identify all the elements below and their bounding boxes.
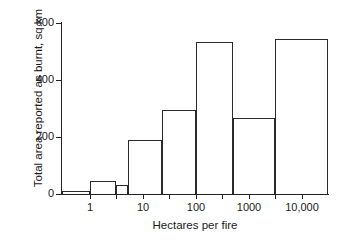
chart-container: Total area reported as burnt, sq.km 0200… xyxy=(0,0,342,242)
x-tick-mark-minor xyxy=(275,194,276,199)
bar xyxy=(162,110,196,194)
bar xyxy=(116,185,127,194)
plot-area xyxy=(62,23,328,194)
x-tick-mark xyxy=(249,194,250,199)
y-tick-label: 600 xyxy=(14,17,54,28)
x-tick-label: 1 xyxy=(87,201,93,213)
x-tick-label: 10,000 xyxy=(285,201,319,213)
y-tick-mark xyxy=(56,194,62,195)
bar xyxy=(233,118,276,194)
x-tick-label: 10 xyxy=(137,201,149,213)
x-tick-mark-minor xyxy=(169,194,170,199)
bar xyxy=(62,191,90,194)
bar xyxy=(275,39,328,194)
x-tick-label: 1000 xyxy=(237,201,261,213)
x-axis-line xyxy=(61,194,329,195)
x-tick-mark xyxy=(143,194,144,199)
y-tick-label: 200 xyxy=(14,131,54,142)
x-tick-mark-minor xyxy=(116,194,117,199)
x-tick-mark xyxy=(302,194,303,199)
x-axis-title: Hectares per fire xyxy=(62,219,328,232)
bar xyxy=(196,42,233,194)
x-tick-mark xyxy=(196,194,197,199)
bar xyxy=(128,140,162,194)
bar xyxy=(90,181,117,194)
y-axis-title: Total area reported as burnt, sq.km xyxy=(32,0,44,198)
x-tick-label: 100 xyxy=(187,201,205,213)
y-tick-label: 400 xyxy=(14,74,54,85)
y-tick-label: 0 xyxy=(14,188,54,199)
x-tick-mark xyxy=(90,194,91,199)
x-tick-mark-minor xyxy=(222,194,223,199)
